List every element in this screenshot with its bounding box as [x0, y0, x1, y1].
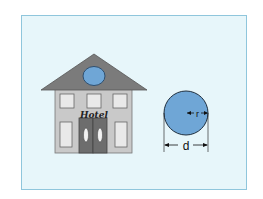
diameter-arrow-right	[203, 143, 208, 147]
window-lower-right	[115, 122, 127, 147]
circle-figure: r d	[164, 91, 208, 153]
diagram-canvas: Hotel r d	[0, 0, 263, 199]
diameter-label: d	[183, 139, 190, 153]
door-window-left	[84, 128, 89, 142]
window-upper-left	[60, 94, 74, 108]
window-upper-right	[113, 94, 127, 108]
diameter-arrow-left	[164, 143, 169, 147]
door-window-right	[98, 128, 103, 142]
radius-label: r	[196, 109, 199, 119]
hotel-building: Hotel	[41, 54, 147, 153]
roof-window-icon	[83, 67, 105, 86]
hotel-sign: Hotel	[79, 110, 108, 120]
window-lower-left	[60, 122, 72, 147]
window-upper-center	[87, 94, 101, 108]
